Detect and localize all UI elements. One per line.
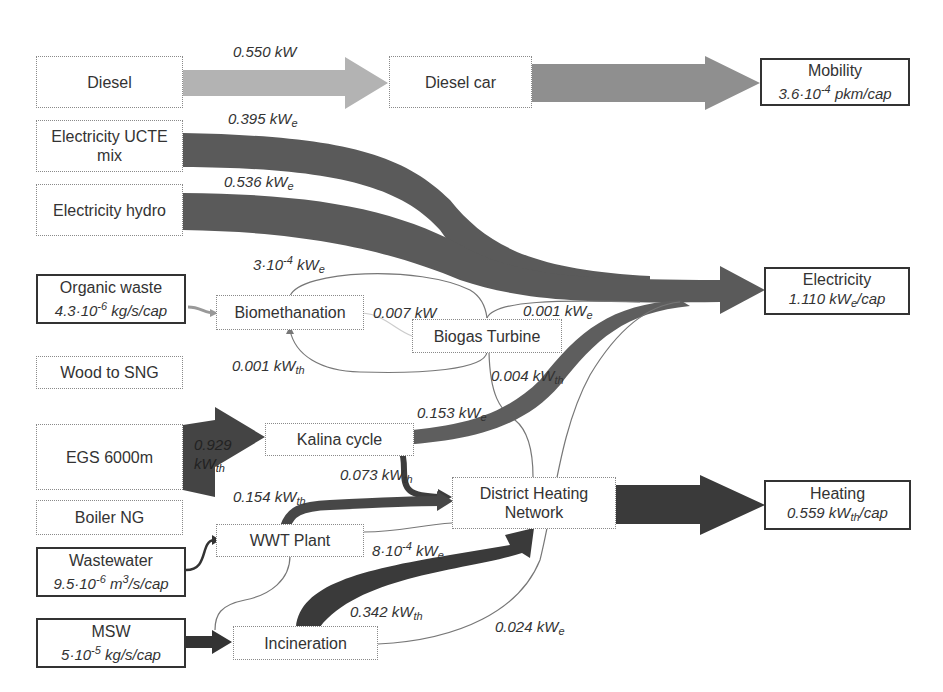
node-label: Boiler NG [75,508,144,527]
node-label: Biomethanation [234,303,345,322]
node-value: 3.6·10-4 pkm/cap [778,80,891,103]
label-dhn-wwt: 8·10-4 kWe [372,540,444,561]
flow-wastewater-to-wwt [186,540,216,570]
label-turbine-electricity: 0.001 kWe [523,302,593,321]
label-wwt-dhn: 0.154 kWth [233,488,306,507]
label-incineration-electricity: 0.024 kWe [495,618,565,637]
node-mobility[interactable]: Mobility 3.6·10-4 pkm/cap [760,58,910,106]
label-kalina-dhn: 0.073 kWth [340,466,413,485]
node-electricity-hydro[interactable]: Electricity hydro [36,184,183,236]
node-wood-to-sng[interactable]: Wood to SNG [36,356,183,389]
node-value: 0.559 kWth/cap [787,503,888,527]
node-title: Heating [810,484,865,503]
flow-dhn-to-heating [616,475,765,535]
node-title: Mobility [808,61,862,80]
label-ucte-flow: 0.395 kWe [228,110,298,129]
node-value: 1.110 kWe/cap [789,289,886,313]
node-label: Electricity hydro [53,201,166,220]
flow-incineration-to-electricity [378,302,680,644]
node-label: Wood to SNG [60,363,158,382]
label-diesel-flow: 0.550 kW [233,43,296,60]
node-electricity-ucte[interactable]: Electricity UCTE mix [36,120,183,172]
flow-diesel-to-dieselcar [183,57,388,109]
node-diesel[interactable]: Diesel [36,56,183,108]
node-value: 4.3·10-6 kg/s/cap [55,297,167,320]
node-biomethanation[interactable]: Biomethanation [216,295,364,330]
node-biogas-turbine[interactable]: Biogas Turbine [412,319,562,353]
node-label: Biogas Turbine [434,327,541,346]
node-label: District Heating Network [453,484,615,522]
node-label: Diesel [87,73,131,92]
label-biometh-turbine: 0.007 kW [373,304,436,321]
node-heating[interactable]: Heating 0.559 kWth/cap [764,480,911,530]
node-egs-6000m[interactable]: EGS 6000m [36,424,183,490]
node-electricity[interactable]: Electricity 1.110 kWe/cap [764,267,910,315]
flow-msw-to-incineration [186,630,232,654]
node-boiler-ng[interactable]: Boiler NG [36,500,183,535]
node-organic-waste[interactable]: Organic waste 4.3·10-6 kg/s/cap [36,274,186,324]
label-turbine-biometh-e: 3·10-4 kWe [253,254,325,275]
label-kalina-electricity: 0.153 kWe [417,404,487,423]
flow-dieselcar-to-mobility [531,56,760,110]
node-value: 5·10-5 kg/s/cap [61,641,161,664]
node-diesel-car[interactable]: Diesel car [389,56,532,108]
node-label: Kalina cycle [297,430,382,449]
label-hydro-flow: 0.536 kWe [224,173,294,192]
node-msw[interactable]: MSW 5·10-5 kg/s/cap [36,618,186,668]
node-title: MSW [91,622,130,641]
node-title: Electricity [803,270,871,289]
node-label: EGS 6000m [66,448,153,467]
node-title: Wastewater [69,551,153,570]
flow-dhn-to-wwt [364,523,452,532]
node-title: Organic waste [60,278,162,297]
label-egs-kalina: 0.929kWth [194,435,232,478]
node-label: Incineration [264,634,347,653]
node-wwt-plant[interactable]: WWT Plant [216,524,364,557]
node-district-heating[interactable]: District Heating Network [452,477,616,529]
node-label: WWT Plant [250,531,331,550]
node-label: Diesel car [425,73,496,92]
node-wastewater[interactable]: Wastewater 9.5·10-6 m3/s/cap [36,547,186,597]
flow-wwt-to-incineration [215,556,290,630]
node-value: 9.5·10-6 m3/s/cap [53,570,168,593]
node-label: Electricity UCTE mix [37,127,182,165]
label-turbine-dhn: 0.004 kWth [491,367,564,386]
label-incineration-dhn: 0.342 kWth [350,603,423,622]
node-incineration[interactable]: Incineration [233,626,378,660]
label-turbine-biometh-th: 0.001 kWth [232,357,305,376]
node-kalina-cycle[interactable]: Kalina cycle [265,423,414,456]
